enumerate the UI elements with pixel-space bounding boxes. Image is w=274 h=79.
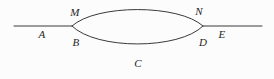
label-b: B xyxy=(73,37,80,48)
label-m: M xyxy=(70,7,79,18)
label-c: C xyxy=(134,58,141,69)
lower-arc xyxy=(72,26,203,44)
label-n: N xyxy=(195,6,202,17)
diagram-canvas: A M B C N D E xyxy=(0,0,274,79)
label-d: D xyxy=(199,37,207,48)
label-e: E xyxy=(219,29,226,40)
upper-arc xyxy=(72,10,203,27)
label-a: A xyxy=(39,29,46,40)
